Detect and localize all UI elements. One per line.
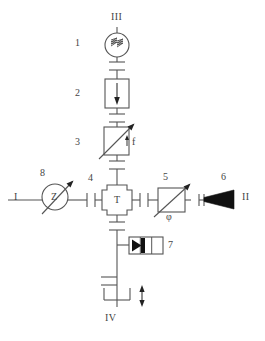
tapered-wedge-symbol	[204, 190, 234, 209]
item-number-2: 2	[75, 88, 80, 98]
symbol-label-phi: φ	[166, 212, 172, 222]
block-7-bar	[141, 238, 145, 253]
wedge-body	[204, 190, 234, 209]
bottom-bracket-symbol	[104, 285, 130, 307]
diagram-canvas: III I II IV 1 2 3 4 5 6 7 8 f φ T Z	[0, 0, 265, 341]
symbol-label-f: f	[132, 137, 135, 147]
item-number-1: 1	[75, 38, 80, 48]
item-number-6: 6	[221, 172, 226, 182]
symbol-label-z: Z	[51, 192, 57, 202]
item-number-8: 8	[40, 168, 45, 178]
source-circle-symbol	[105, 33, 129, 57]
variable-element-f-symbol	[99, 124, 135, 160]
triangle-amplifier-block-symbol	[129, 237, 163, 254]
connection-lines	[8, 27, 204, 285]
symbol-label-t: T	[114, 195, 120, 205]
item-number-7: 7	[168, 240, 173, 250]
down-arrow-box-symbol	[105, 79, 129, 108]
item-number-5: 5	[163, 172, 168, 182]
item-number-3: 3	[75, 137, 80, 147]
port-label-iv: IV	[105, 313, 116, 323]
port-label-ii: II	[242, 192, 249, 202]
box-5-outline	[158, 188, 185, 212]
vertical-double-arrow-symbol	[139, 285, 144, 307]
double-arrow-head-up	[139, 285, 144, 292]
double-arrow-head-down	[139, 300, 144, 307]
port-label-i: I	[14, 192, 18, 202]
variable-element-phi-symbol	[154, 184, 191, 218]
port-label-iii: III	[111, 12, 122, 22]
item-number-4: 4	[88, 173, 93, 183]
impedance-circle-z-symbol	[42, 181, 74, 215]
